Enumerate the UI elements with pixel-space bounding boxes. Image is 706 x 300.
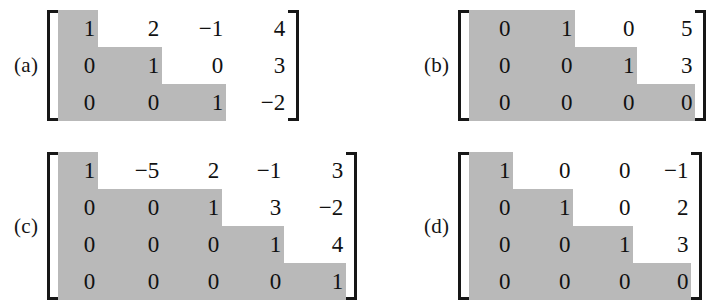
matrix-cell: 0 bbox=[573, 152, 633, 189]
matrix-cell: 0 bbox=[637, 84, 695, 121]
matrix-cell: 3 bbox=[284, 152, 346, 189]
left-bracket bbox=[47, 152, 58, 300]
matrix-cell: −2 bbox=[226, 84, 288, 121]
matrix-grid: 010500130000 bbox=[469, 10, 695, 121]
matrix-cell: 0 bbox=[162, 47, 226, 84]
matrix-cell: 0 bbox=[98, 226, 162, 263]
matrix-cell: 1 bbox=[162, 189, 222, 226]
matrix-cell: −1 bbox=[633, 152, 691, 189]
matrix-cell: 0 bbox=[98, 263, 162, 300]
matrix-body: 1−52−130013−20001400001 bbox=[47, 152, 357, 300]
matrix-cell: 0 bbox=[58, 84, 98, 121]
matrix-cell: 0 bbox=[513, 226, 573, 263]
matrix-cell: 0 bbox=[469, 189, 513, 226]
matrix-body: 010500130000 bbox=[458, 10, 706, 121]
matrix-b: (b)010500130000 bbox=[424, 10, 706, 121]
matrix-cell: 1 bbox=[575, 47, 637, 84]
matrix-a: (a)12−140103001−2 bbox=[14, 10, 299, 121]
matrix-cell: 3 bbox=[633, 226, 691, 263]
matrix-d: (d)100−1010200130000 bbox=[424, 152, 702, 300]
matrix-cell: 1 bbox=[573, 226, 633, 263]
matrix-cell: 0 bbox=[573, 189, 633, 226]
right-bracket bbox=[288, 10, 299, 121]
matrix-grid: 1−52−130013−20001400001 bbox=[58, 152, 346, 300]
matrix-cell: 0 bbox=[513, 84, 575, 121]
matrix-entries: 010500130000 bbox=[469, 10, 695, 121]
matrix-grid: 12−140103001−2 bbox=[58, 10, 288, 121]
matrix-cell: 1 bbox=[58, 10, 98, 47]
matrix-cell: 4 bbox=[226, 10, 288, 47]
matrix-label: (d) bbox=[424, 214, 458, 239]
matrix-cell: 0 bbox=[58, 226, 98, 263]
matrix-cell: −5 bbox=[98, 152, 162, 189]
matrix-cell: 4 bbox=[284, 226, 346, 263]
matrix-cell: 0 bbox=[513, 152, 573, 189]
matrix-cell: 1 bbox=[162, 84, 226, 121]
matrix-entries: 12−140103001−2 bbox=[58, 10, 288, 121]
matrix-cell: 0 bbox=[469, 84, 513, 121]
matrix-cell: 0 bbox=[58, 263, 98, 300]
matrix-body: 12−140103001−2 bbox=[47, 10, 299, 121]
matrix-cell: 1 bbox=[222, 226, 284, 263]
matrix-entries: 1−52−130013−20001400001 bbox=[58, 152, 346, 300]
matrix-cell: 0 bbox=[98, 189, 162, 226]
matrix-cell: −1 bbox=[162, 10, 226, 47]
matrix-c: (c)1−52−130013−20001400001 bbox=[14, 152, 357, 300]
matrix-cell: 3 bbox=[637, 47, 695, 84]
right-bracket bbox=[346, 152, 357, 300]
left-bracket bbox=[458, 152, 469, 300]
matrix-cell: 0 bbox=[575, 10, 637, 47]
matrix-cell: 1 bbox=[284, 263, 346, 300]
matrix-cell: 0 bbox=[162, 226, 222, 263]
matrix-cell: 0 bbox=[633, 263, 691, 300]
matrix-cell: 1 bbox=[513, 189, 573, 226]
matrix-cell: 1 bbox=[58, 152, 98, 189]
matrix-cell: 0 bbox=[58, 189, 98, 226]
matrix-cell: 0 bbox=[469, 226, 513, 263]
matrix-cell: 1 bbox=[469, 152, 513, 189]
right-bracket bbox=[691, 152, 702, 300]
matrix-cell: 2 bbox=[633, 189, 691, 226]
matrix-cell: 0 bbox=[222, 263, 284, 300]
matrix-cell: 0 bbox=[98, 84, 162, 121]
matrix-grid: 100−1010200130000 bbox=[469, 152, 691, 300]
matrix-label: (a) bbox=[14, 53, 47, 78]
matrix-cell: −2 bbox=[284, 189, 346, 226]
right-bracket bbox=[695, 10, 706, 121]
matrix-cell: 0 bbox=[513, 263, 573, 300]
matrix-cell: 1 bbox=[513, 10, 575, 47]
matrix-cell: 0 bbox=[469, 10, 513, 47]
matrix-cell: −1 bbox=[222, 152, 284, 189]
matrix-label: (b) bbox=[424, 53, 458, 78]
matrix-label: (c) bbox=[14, 214, 47, 239]
matrix-cell: 2 bbox=[162, 152, 222, 189]
matrix-body: 100−1010200130000 bbox=[458, 152, 702, 300]
left-bracket bbox=[458, 10, 469, 121]
matrix-cell: 1 bbox=[98, 47, 162, 84]
matrix-cell: 5 bbox=[637, 10, 695, 47]
matrix-cell: 0 bbox=[573, 263, 633, 300]
matrix-cell: 0 bbox=[469, 47, 513, 84]
matrix-cell: 3 bbox=[222, 189, 284, 226]
matrix-cell: 3 bbox=[226, 47, 288, 84]
matrix-cell: 2 bbox=[98, 10, 162, 47]
left-bracket bbox=[47, 10, 58, 121]
matrix-cell: 0 bbox=[58, 47, 98, 84]
matrix-entries: 100−1010200130000 bbox=[469, 152, 691, 300]
matrix-cell: 0 bbox=[575, 84, 637, 121]
matrix-cell: 0 bbox=[162, 263, 222, 300]
matrix-cell: 0 bbox=[513, 47, 575, 84]
matrix-cell: 0 bbox=[469, 263, 513, 300]
